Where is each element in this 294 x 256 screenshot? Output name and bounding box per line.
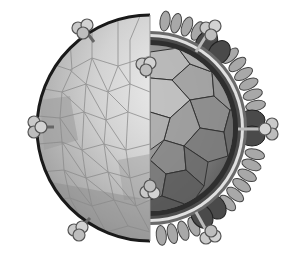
virus-illustration [0,0,294,256]
virus-svg [0,0,294,256]
spike-protein [68,218,90,241]
